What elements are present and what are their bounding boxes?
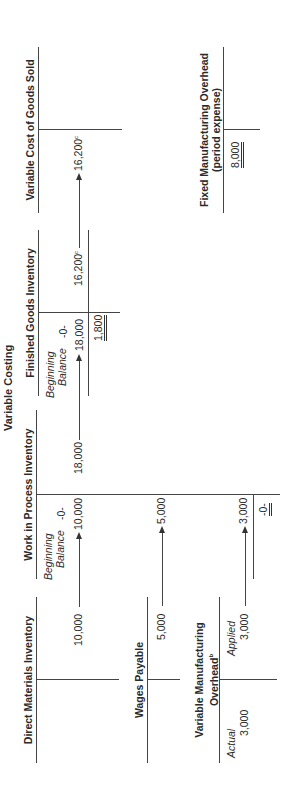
applied-value: 3,000 (238, 614, 250, 640)
balance-label: Balance (55, 530, 66, 568)
arrow-overhead-to-wip (245, 532, 246, 606)
actual-label: Actual (226, 729, 237, 758)
arrow-wages-to-wip (162, 532, 163, 606)
account-title: Fixed Manufacturing Overhead (period exp… (198, 47, 222, 213)
credit-amount: 16,200 (72, 254, 84, 286)
arrowhead-icon (76, 532, 82, 539)
credit-value: 5,000 (155, 614, 167, 640)
credit-value: 16,200c (72, 251, 84, 286)
account-title: Direct Materials Inventory (22, 597, 34, 763)
beginning-label: Beginning (43, 533, 54, 580)
credit-value: 18,000 (72, 442, 84, 474)
t-account-top-line (219, 597, 220, 763)
debit-value: 16,200c (72, 136, 84, 171)
t-account-divider (38, 312, 120, 313)
debit-overhead-value: 3,000 (237, 498, 249, 524)
balance-line (88, 230, 89, 396)
variable-costing-diagram: Variable Costing Direct Materials Invent… (0, 0, 301, 796)
balance-label: Balance (57, 348, 68, 386)
debit-amount: 16,200 (72, 139, 84, 171)
account-title: Work in Process Inventory (22, 410, 34, 579)
account-title-line-2: (period expense) (210, 47, 222, 213)
arrowhead-icon (159, 526, 165, 533)
beginning-balance-value: -0- (55, 507, 67, 520)
ending-balance-value: 1,800 (93, 315, 107, 341)
t-account-divider (223, 129, 260, 130)
arrow-wip-to-finished-goods (79, 360, 80, 440)
t-account-top-line (38, 230, 39, 396)
applied-label: Applied (226, 621, 237, 656)
t-account-divider (147, 679, 180, 680)
debit-materials-value: 10,000 (72, 498, 84, 530)
account-title: Variable Cost of Goods Sold (24, 47, 36, 213)
balance-line (253, 495, 254, 579)
debit-value: 18,000 (73, 319, 85, 351)
arrowhead-icon (76, 173, 82, 180)
t-account-divider (38, 129, 122, 130)
account-title: Wages Payable (133, 597, 145, 763)
t-account-top-line (38, 47, 39, 213)
actual-value: 3,000 (238, 710, 250, 736)
t-account-top-line (223, 47, 224, 213)
arrow-finished-goods-to-cogs (79, 179, 80, 248)
t-account-top-line (147, 597, 148, 763)
footnote-marker: c (73, 136, 79, 139)
arrowhead-icon (76, 354, 82, 361)
t-account-divider (36, 494, 280, 495)
footnote-marker: b (208, 654, 214, 658)
arrow-materials-to-wip (79, 538, 80, 607)
ending-balance-value: -0- (258, 503, 272, 516)
credit-value: 10,000 (72, 614, 84, 646)
t-account-divider (219, 679, 277, 680)
account-title-line-2: Overheadb (205, 597, 220, 763)
diagram-title: Variable Costing (2, 345, 14, 431)
t-account-top-line (36, 597, 37, 763)
account-title-text: Overhead (208, 658, 220, 706)
account-title: Finished Goods Inventory (24, 230, 36, 396)
beginning-label: Beginning (45, 351, 56, 398)
footnote-marker: c (73, 251, 79, 254)
beginning-balance-value: -0- (57, 325, 69, 338)
debit-labor-value: 5,000 (155, 498, 167, 524)
account-title-line-1: Fixed Manufacturing Overhead (198, 47, 210, 213)
arrowhead-icon (242, 526, 248, 533)
debit-value: 8,000 (230, 142, 244, 168)
t-account-divider (36, 679, 119, 680)
account-title: Variable Manufacturing Overheadb (193, 597, 220, 763)
account-title-line-1: Variable Manufacturing (193, 597, 205, 763)
